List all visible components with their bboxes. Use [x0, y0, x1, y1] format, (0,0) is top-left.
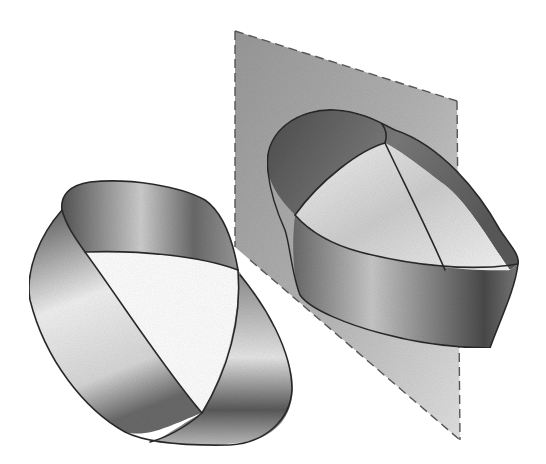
mobius-mirror-figure [0, 0, 546, 464]
right-mobius-strip [267, 110, 518, 348]
